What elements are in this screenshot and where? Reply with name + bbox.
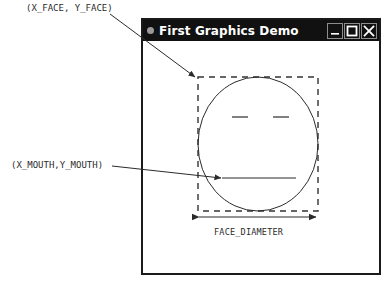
minimize-button[interactable] bbox=[327, 23, 343, 39]
maximize-icon bbox=[348, 26, 357, 35]
window-title: First Graphics Demo bbox=[159, 24, 327, 38]
close-icon bbox=[365, 26, 374, 35]
window-titlebar[interactable]: First Graphics Demo bbox=[143, 20, 379, 41]
minimize-icon bbox=[331, 33, 339, 35]
figure-root: First Graphics Demo bbox=[0, 0, 391, 290]
maximize-button[interactable] bbox=[344, 23, 360, 39]
close-button[interactable] bbox=[361, 23, 377, 39]
window-client-area bbox=[143, 41, 379, 273]
face-diameter-label: FACE_DIAMETER bbox=[214, 227, 283, 238]
circle-dot-icon bbox=[147, 27, 154, 34]
mouth-point-label: (X_MOUTH,Y_MOUTH) bbox=[11, 160, 103, 171]
face-point-label: (X_FACE, Y_FACE) bbox=[26, 3, 113, 14]
window-controls bbox=[327, 23, 377, 39]
